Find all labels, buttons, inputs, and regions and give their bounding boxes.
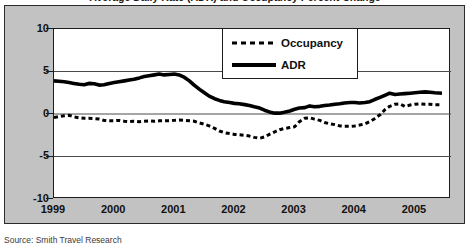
y-tick-mark bbox=[46, 28, 53, 29]
y-tick-mark bbox=[46, 113, 53, 114]
x-tick-label: 2000 bbox=[88, 203, 138, 215]
y-tick-mark bbox=[46, 71, 53, 72]
x-tick-label: 2005 bbox=[389, 203, 439, 215]
legend-label-occupancy: Occupancy bbox=[281, 37, 343, 49]
y-axis-labels: 1050-5-10 bbox=[5, 28, 49, 198]
x-axis-labels: 1999200020012002200320042005 bbox=[53, 203, 450, 221]
y-tick-label: -5 bbox=[9, 150, 49, 161]
source-note: Source: Smith Travel Research bbox=[4, 235, 304, 247]
solid-line-icon bbox=[231, 59, 277, 71]
y-tick-mark bbox=[46, 156, 53, 157]
chart-frame: 1050-5-10 Occupancy bbox=[4, 5, 465, 224]
legend-label-adr: ADR bbox=[281, 59, 306, 71]
x-tick-label: 2002 bbox=[208, 203, 258, 215]
x-tick-label: 1999 bbox=[28, 203, 78, 215]
x-tick-label: 2001 bbox=[148, 203, 198, 215]
x-tick-label: 2003 bbox=[269, 203, 319, 215]
dashed-line-icon bbox=[231, 37, 277, 49]
legend-item-occupancy: Occupancy bbox=[231, 33, 343, 53]
series-line-adr bbox=[54, 74, 442, 113]
y-tick-label: 5 bbox=[9, 65, 49, 76]
y-tick-mark bbox=[46, 198, 53, 199]
y-tick-label: -10 bbox=[9, 193, 49, 204]
series-lines bbox=[54, 74, 442, 138]
x-tick-label: 2004 bbox=[329, 203, 379, 215]
series-line-occupancy bbox=[54, 104, 442, 138]
chart-legend: Occupancy ADR bbox=[222, 28, 358, 79]
legend-item-adr: ADR bbox=[231, 55, 306, 75]
y-tick-label: 0 bbox=[9, 108, 49, 119]
y-tick-label: 10 bbox=[9, 23, 49, 34]
